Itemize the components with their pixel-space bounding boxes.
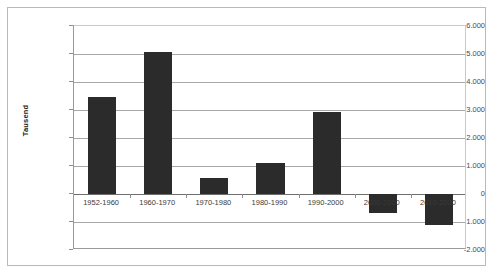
- bar: [144, 52, 172, 194]
- x-axis-category-label: 1980-1990: [252, 198, 288, 207]
- x-axis-tick-mark: [186, 194, 187, 198]
- gridline: [74, 138, 465, 139]
- gridline: [74, 82, 465, 83]
- x-axis-category-label: 1960-1970: [139, 198, 175, 207]
- x-axis-tick-mark: [242, 194, 243, 198]
- x-axis-tick-mark: [355, 194, 356, 198]
- chart-plot-container: Tausend 6.0005.0004.0003.0002.0001.0000-…: [8, 8, 485, 265]
- y-axis-tick-mark: [69, 249, 73, 250]
- bar: [313, 112, 341, 194]
- x-axis-category-label: 2000-2010: [364, 198, 400, 207]
- gridline: [74, 194, 465, 195]
- x-axis-tick-mark: [299, 194, 300, 198]
- chart-frame: Tausend 6.0005.0004.0003.0002.0001.0000-…: [7, 7, 486, 266]
- x-axis-category-label: 1952-1960: [83, 198, 119, 207]
- gridline: [74, 54, 465, 55]
- x-axis-category-label: 1970-1980: [195, 198, 231, 207]
- bar: [200, 178, 228, 194]
- x-axis-category-label: 1990-2000: [308, 198, 344, 207]
- y-axis-title: Tausend: [21, 91, 30, 151]
- bar: [256, 163, 284, 194]
- x-axis-category-label: 2010-2020: [420, 198, 456, 207]
- gridline: [74, 110, 465, 111]
- gridline: [74, 222, 465, 223]
- x-axis-tick-mark: [130, 194, 131, 198]
- bar: [88, 97, 116, 194]
- x-axis-tick-mark: [411, 194, 412, 198]
- plot-area: [73, 25, 466, 249]
